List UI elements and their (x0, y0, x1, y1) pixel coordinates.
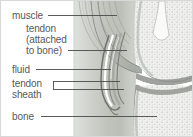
label-muscle: muscle (12, 10, 43, 21)
label-bone: bone (12, 111, 34, 122)
anatomy-figure: muscle tendon (attached to bone) fluid t… (0, 0, 193, 137)
label-fluid: fluid (12, 64, 30, 75)
label-sheath-line-2: sheath (12, 89, 41, 100)
lower-bone (133, 85, 193, 137)
label-tendon-line-3: to bone) (26, 45, 62, 56)
label-tendon-line-2: (attached (26, 34, 67, 45)
label-tendon-line-1: tendon (26, 23, 56, 34)
label-sheath-line-1: tendon (12, 78, 42, 89)
